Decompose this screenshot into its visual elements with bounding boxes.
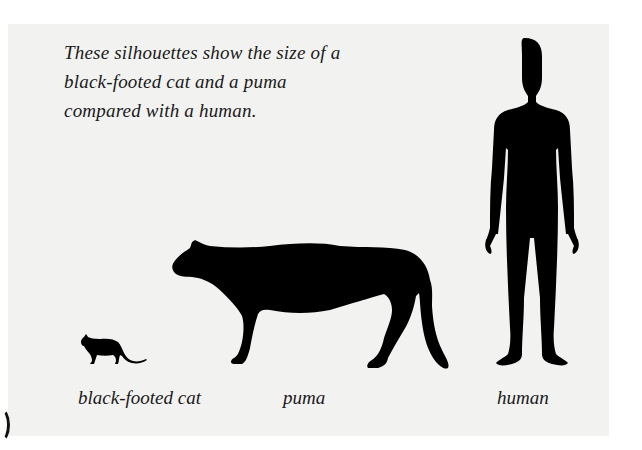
label-puma: puma bbox=[283, 387, 325, 409]
label-black-footed-cat: black-footed cat bbox=[78, 387, 201, 409]
caption-line-2: black-footed cat and a puma bbox=[64, 67, 384, 96]
caption-line-3: compared with a human. bbox=[64, 96, 384, 125]
figure-caption: These silhouettes show the size of a bla… bbox=[64, 38, 384, 125]
label-human: human bbox=[497, 387, 549, 409]
puma-silhouette-icon bbox=[170, 238, 450, 373]
human-silhouette-icon bbox=[482, 38, 582, 370]
cat-silhouette-icon bbox=[80, 333, 150, 367]
caption-line-1: These silhouettes show the size of a bbox=[64, 38, 384, 67]
